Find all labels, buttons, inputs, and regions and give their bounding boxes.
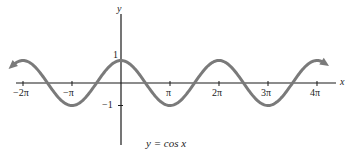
caption-text: y = cos x bbox=[146, 137, 186, 149]
x-tick-label: −π bbox=[63, 87, 74, 98]
y-tick-label: 1 bbox=[113, 49, 118, 60]
cosine-graph bbox=[0, 0, 359, 159]
x-tick-label: 4π bbox=[310, 87, 320, 98]
y-tick-label: −1 bbox=[102, 99, 113, 110]
y-axis-label: y bbox=[117, 3, 121, 14]
function-caption: y = cos x bbox=[146, 137, 186, 149]
x-tick-label: 3π bbox=[261, 87, 271, 98]
x-tick-label: π bbox=[166, 87, 171, 98]
x-tick-label: 2π bbox=[212, 87, 222, 98]
x-tick-label: −2π bbox=[13, 87, 29, 98]
x-axis-label: x bbox=[340, 76, 344, 87]
